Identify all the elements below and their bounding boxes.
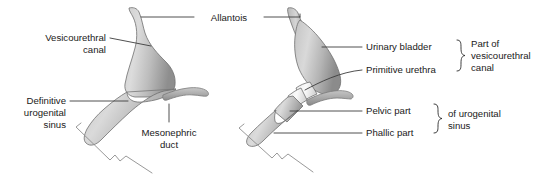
mesonephric-duct-label-line2: duct: [160, 139, 178, 150]
lower-brace: [434, 104, 442, 133]
upper-group-label-line1: Part of: [471, 38, 500, 49]
right-bottom-bracket: [239, 124, 313, 172]
allantois-label: Allantois: [211, 12, 247, 23]
lower-group-label-line2: sinus: [448, 120, 471, 131]
vesicourethral-canal-shape: [125, 8, 175, 97]
definitive-sinus-label-line2: urogenital: [24, 107, 66, 118]
lower-group-label-line1: of urogenital: [448, 108, 501, 119]
lower-brace-group: of urogenital sinus: [434, 104, 501, 133]
allantois-label-group: Allantois: [141, 12, 300, 23]
pelvic-part-label: Pelvic part: [366, 105, 411, 116]
mesonephric-duct-label-group: Mesonephric duct: [142, 104, 197, 150]
urinary-bladder-label: Urinary bladder: [366, 41, 432, 52]
primitive-urethra-label: Primitive urethra: [366, 64, 437, 75]
upper-group-label-line3: canal: [471, 62, 494, 73]
urogenital-sinus-diagram: Allantois Vesicourethral canal Definitiv…: [0, 0, 538, 175]
phallic-part-label: Phallic part: [366, 127, 414, 138]
vesicourethral-canal-label-line2: canal: [83, 44, 106, 55]
phallic-part-label-group: Phallic part: [274, 127, 414, 138]
definitive-sinus-label-line3: sinus: [44, 119, 67, 130]
right-organ-group: [247, 8, 353, 147]
upper-brace-group: Part of vesicourethral canal: [457, 38, 531, 73]
left-organ-group: [84, 8, 208, 145]
definitive-sinus-label-line1: Definitive: [27, 95, 66, 106]
upper-group-label-line2: vesicourethral: [471, 50, 531, 61]
vesicourethral-canal-label-line1: Vesicourethral: [45, 32, 106, 43]
urinary-bladder-label-group: Urinary bladder: [322, 41, 432, 52]
pelvic-part-label-group: Pelvic part: [290, 105, 411, 116]
upper-brace: [457, 40, 465, 71]
mesonephric-duct-label-line1: Mesonephric: [142, 127, 197, 138]
